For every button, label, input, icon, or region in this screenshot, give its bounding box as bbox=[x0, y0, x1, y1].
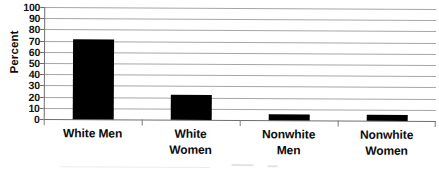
y-tick-label-100: 100 bbox=[14, 2, 40, 12]
scan-artifact bbox=[231, 164, 253, 166]
category-label-line: Nonwhite bbox=[262, 127, 315, 141]
y-tick-label-20: 20 bbox=[14, 92, 40, 102]
x-tick-separator bbox=[435, 121, 436, 127]
y-tick-label-80: 80 bbox=[14, 24, 40, 34]
y-tick-label-90: 90 bbox=[14, 13, 40, 23]
y-tick-label-0: 0 bbox=[14, 114, 40, 124]
y-tick-label-40: 40 bbox=[14, 69, 40, 79]
scan-artifact bbox=[267, 165, 277, 167]
chart-plate: Percent 1009080706050403020100 White Men… bbox=[0, 0, 439, 170]
x-tick-separator bbox=[338, 121, 339, 127]
category-label-line: Men bbox=[240, 143, 338, 159]
category-label-line: White bbox=[175, 127, 207, 141]
y-tick-label-50: 50 bbox=[14, 58, 40, 68]
y-axis-tick-labels: 1009080706050403020100 bbox=[14, 0, 41, 126]
bars-layer bbox=[44, 7, 437, 121]
x-category-label: NonwhiteMen bbox=[240, 127, 338, 158]
category-label-line: Women bbox=[142, 142, 240, 158]
x-category-label: NonwhiteWomen bbox=[338, 128, 436, 159]
bar bbox=[170, 95, 211, 120]
y-tick-label-30: 30 bbox=[14, 80, 40, 90]
category-label-line: Women bbox=[338, 143, 436, 159]
bar-chart-figure: Percent 1009080706050403020100 White Men… bbox=[0, 0, 439, 170]
bar bbox=[72, 40, 113, 120]
x-tick-separator bbox=[142, 120, 143, 126]
x-tick-separator bbox=[44, 119, 45, 125]
x-tick-separator bbox=[240, 120, 241, 126]
category-label-line: White Men bbox=[63, 126, 122, 140]
x-category-label: White Men bbox=[44, 126, 142, 142]
y-tick-label-10: 10 bbox=[14, 103, 40, 113]
y-tick-label-70: 70 bbox=[14, 36, 40, 46]
y-tick-label-60: 60 bbox=[14, 47, 40, 57]
category-label-line: Nonwhite bbox=[360, 128, 413, 142]
plot-area bbox=[44, 7, 437, 121]
x-category-label: WhiteWomen bbox=[142, 127, 240, 158]
